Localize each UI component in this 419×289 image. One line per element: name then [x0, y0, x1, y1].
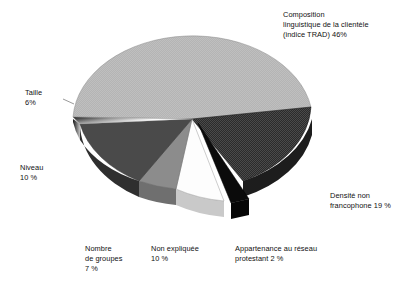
label-composition-linguistique: Composition linguistique de la clientèle… — [283, 10, 419, 41]
pie-chart-figure: Composition linguistique de la clientèle… — [0, 0, 419, 289]
slice-composition-linguistique — [73, 36, 311, 119]
label-niveau: Niveau 10 % — [20, 163, 76, 183]
label-appartenance-protestant: Appartenance au réseau protestant 2 % — [235, 244, 349, 264]
label-nombre-de-groupes: Nombre de groupes 7 % — [85, 244, 147, 275]
label-densite-non-francophone: Densité non francophone 19 % — [330, 191, 419, 211]
label-taille: Taille 6% — [25, 88, 75, 108]
label-non-expliquee: Non expliquée 10 % — [151, 244, 225, 264]
